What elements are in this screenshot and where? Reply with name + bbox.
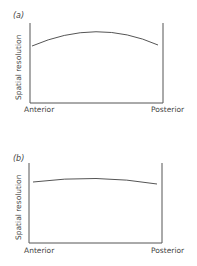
x-left-label: Anterior [24, 105, 54, 114]
x-right-label: Posterior [151, 246, 184, 255]
y-axis-label: Spatial resolution [14, 35, 23, 100]
resolution-curve [33, 178, 157, 184]
panel-label: (b) [13, 154, 24, 163]
x-left-label: Anterior [24, 246, 54, 255]
panel-label: (a) [13, 11, 24, 20]
panel-b: (b) Spatial resolution Anterior Posterio… [0, 133, 197, 266]
panel-a: (a) Spatial resolution Anterior Posterio… [0, 0, 197, 133]
y-axis-label: Spatial resolution [14, 175, 23, 240]
resolution-curve [32, 32, 158, 46]
x-right-label: Posterior [151, 105, 184, 114]
